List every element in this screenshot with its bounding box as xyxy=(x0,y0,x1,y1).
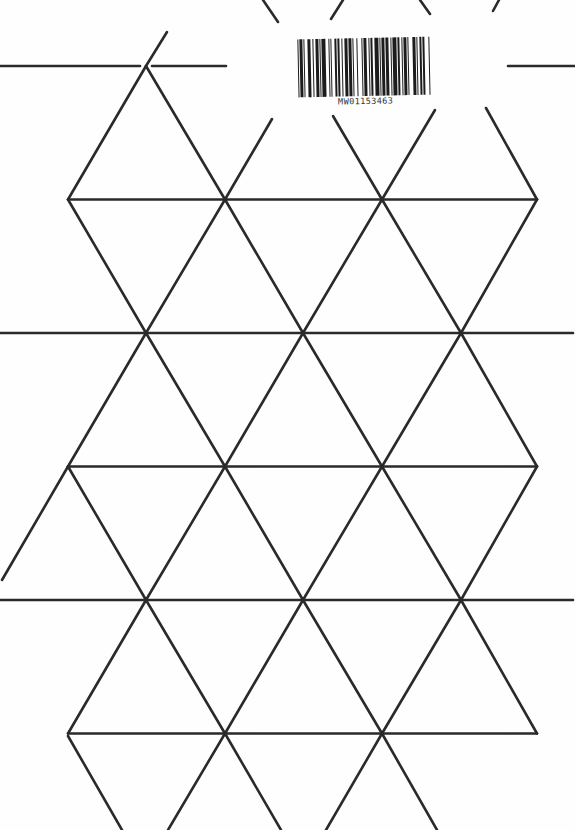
grid-line xyxy=(461,600,537,734)
grid-line xyxy=(225,119,272,200)
grid-line xyxy=(168,734,225,830)
grid-line xyxy=(225,467,303,601)
grid-line xyxy=(146,66,225,200)
grid-line xyxy=(225,333,303,467)
scanned-page: MW01153463 xyxy=(0,0,575,830)
grid-line xyxy=(225,734,281,830)
grid-line xyxy=(461,333,537,467)
grid-line xyxy=(326,734,382,830)
grid-line xyxy=(461,467,537,601)
triangle-grid xyxy=(0,0,575,830)
grid-line xyxy=(68,736,122,830)
grid-line xyxy=(461,200,537,334)
grid-line xyxy=(303,333,382,467)
grid-line xyxy=(382,467,461,601)
grid-line xyxy=(303,200,382,334)
grid-line xyxy=(225,200,303,334)
grid-line xyxy=(225,600,303,734)
barcode-icon xyxy=(297,37,432,98)
grid-line xyxy=(263,0,278,22)
grid-line xyxy=(146,600,225,734)
grid-line xyxy=(146,333,225,467)
grid-line xyxy=(382,600,461,734)
grid-line xyxy=(68,600,146,734)
grid-line xyxy=(146,32,167,66)
grid-line xyxy=(486,108,537,200)
grid-line xyxy=(333,116,382,200)
grid-line xyxy=(146,467,225,601)
grid-line xyxy=(303,467,382,601)
grid-line xyxy=(68,200,146,334)
grid-line xyxy=(146,200,225,334)
grid-line xyxy=(382,734,437,830)
grid-line xyxy=(382,110,435,200)
grid-line xyxy=(382,200,461,334)
grid-line xyxy=(493,0,499,11)
barcode-number: MW01153463 xyxy=(291,94,441,107)
grid-line xyxy=(382,333,461,467)
barcode-label: MW01153463 xyxy=(289,28,441,111)
grid-line xyxy=(331,0,343,19)
barcode-gap xyxy=(430,37,432,95)
grid-line xyxy=(2,467,68,581)
grid-line xyxy=(68,66,146,200)
grid-line xyxy=(68,333,146,467)
grid-line xyxy=(420,0,430,14)
grid-line xyxy=(303,600,382,734)
grid-line xyxy=(68,467,146,601)
